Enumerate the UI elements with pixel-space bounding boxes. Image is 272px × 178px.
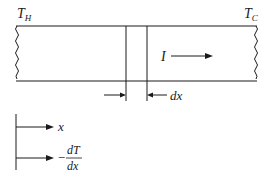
current-label: I [160, 49, 167, 64]
thermoelectric-rod-diagram: dx I TH TC x − dT dx [0, 0, 272, 178]
legend-gradient-denominator: dx [67, 159, 79, 173]
dx-left-arrowhead [120, 93, 126, 98]
hot-end-label: TH [17, 6, 32, 23]
legend-gradient-arrowhead [46, 155, 54, 161]
rod-right-break [255, 26, 258, 79]
legend-x-label: x [57, 119, 64, 134]
legend-x-arrowhead [46, 124, 54, 130]
dx-label: dx [170, 88, 183, 103]
dx-right-arrowhead [147, 93, 153, 98]
legend-gradient-numerator: dT [67, 143, 81, 157]
cold-end-label: TC [244, 6, 259, 23]
rod-left-break [16, 26, 19, 79]
legend-gradient-minus: − [57, 150, 66, 165]
current-arrowhead [205, 53, 213, 59]
